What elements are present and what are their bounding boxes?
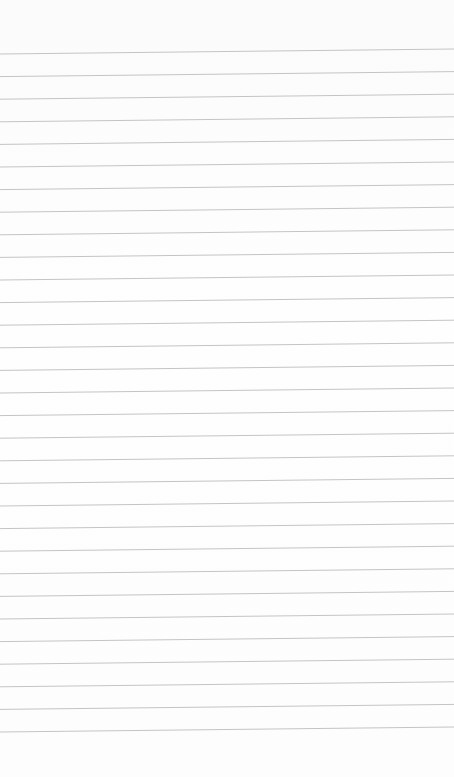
ruled-line	[0, 207, 454, 212]
ruled-line	[0, 117, 454, 122]
ruled-line	[0, 365, 454, 370]
ruled-line	[0, 139, 454, 144]
ruled-line	[0, 659, 454, 664]
ruled-line	[0, 591, 454, 596]
ruled-line	[0, 252, 454, 257]
ruled-line	[0, 162, 454, 167]
ruled-line	[0, 456, 454, 461]
ruled-line	[0, 682, 454, 687]
ruled-line	[0, 433, 454, 438]
ruled-line	[0, 546, 454, 551]
ruled-line	[0, 298, 454, 303]
ruled-line	[0, 411, 454, 416]
ruled-line	[0, 614, 454, 619]
ruled-lines	[0, 0, 454, 777]
ruled-line	[0, 72, 454, 77]
ruled-line	[0, 94, 454, 99]
ruled-line	[0, 637, 454, 642]
ruled-line	[0, 524, 454, 529]
ruled-line	[0, 704, 454, 709]
ruled-line	[0, 320, 454, 325]
ruled-line	[0, 49, 454, 54]
ruled-line	[0, 275, 454, 280]
ruled-line	[0, 388, 454, 393]
ruled-line	[0, 343, 454, 348]
ruled-line	[0, 727, 454, 732]
ruled-line	[0, 569, 454, 574]
ruled-line	[0, 501, 454, 506]
ruled-line	[0, 185, 454, 190]
lined-paper-sheet	[0, 0, 454, 777]
ruled-line	[0, 230, 454, 235]
ruled-line	[0, 478, 454, 483]
